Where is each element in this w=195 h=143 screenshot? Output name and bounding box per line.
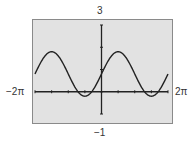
xmax-label: 2π <box>175 87 187 97</box>
ymin-label: −1 <box>94 128 105 138</box>
ymax-label: 3 <box>97 6 103 16</box>
xmin-label: −2π <box>6 87 24 97</box>
graph-window <box>0 0 195 143</box>
